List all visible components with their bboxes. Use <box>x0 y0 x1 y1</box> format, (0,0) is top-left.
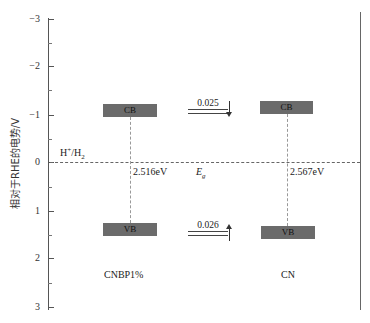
y-tick-label: 2 <box>10 253 40 263</box>
y-tick-minor <box>48 187 52 188</box>
cnbp-label: CNBP1% <box>104 269 143 280</box>
y-axis-line <box>48 18 49 310</box>
cn-vb-band: VB <box>261 226 315 239</box>
cn-cb-band: CB <box>260 101 313 114</box>
vb-offset-value: 0.026 <box>188 220 228 230</box>
y-tick-label: −3 <box>10 14 40 24</box>
y-tick <box>48 19 54 20</box>
y-tick-label: −2 <box>10 61 40 71</box>
y-tick <box>48 211 54 212</box>
cn-band-gap: 2.567eV <box>290 166 324 177</box>
cb-offset-value: 0.025 <box>188 98 228 108</box>
y-tick <box>48 258 54 259</box>
cnbp-vb-band: VB <box>103 223 157 236</box>
reference-label: H+/H2 <box>60 146 85 161</box>
cb-offset: 0.025 <box>188 98 228 114</box>
y-tick-minor <box>48 43 52 44</box>
eg-label: Eg <box>196 166 206 180</box>
cnbp-gap-line <box>130 117 131 223</box>
cnbp-cb-band: CB <box>103 104 157 117</box>
y-tick-minor <box>48 139 52 140</box>
cnbp-band-gap: 2.516eV <box>133 166 167 177</box>
down-arrow-head-icon <box>226 112 232 117</box>
y-tick <box>48 307 54 308</box>
cb-offset-lines <box>188 109 228 114</box>
cn-label: CN <box>281 269 295 280</box>
reference-zero-line <box>50 162 360 163</box>
cn-gap-line <box>287 114 288 226</box>
y-axis-label: 相对于RHE的电势/V <box>7 94 22 234</box>
vb-offset-lines <box>188 231 228 236</box>
y-tick <box>48 66 54 67</box>
y-tick-minor <box>48 90 52 91</box>
up-arrow-head-icon <box>226 224 232 229</box>
y-tick <box>48 115 54 116</box>
vb-offset: 0.026 <box>188 220 228 236</box>
y-tick-minor <box>48 235 52 236</box>
y-tick-minor <box>48 283 52 284</box>
right-border-line <box>360 12 361 310</box>
y-tick-label: 3 <box>10 302 40 312</box>
